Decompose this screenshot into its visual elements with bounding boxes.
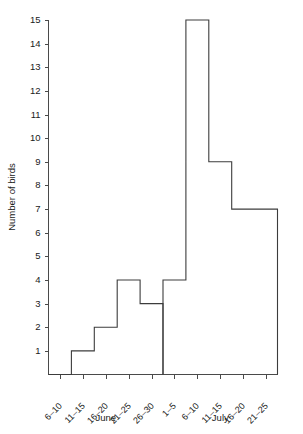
x-tick-label: 21–25 bbox=[245, 401, 270, 426]
histogram-outline-july bbox=[163, 20, 278, 375]
x-tick-marks bbox=[61, 375, 267, 379]
x-axis-group: 6–1011–1516–2021–2526–301–56–1011–1516–2… bbox=[43, 375, 278, 426]
y-tick-label: 15 bbox=[30, 14, 41, 25]
group-label-july: July bbox=[212, 412, 229, 423]
chart-canvas: 123456789101112131415 6–1011–1516–2021–2… bbox=[0, 0, 303, 434]
y-tick-label: 13 bbox=[30, 61, 41, 72]
y-tick-label: 12 bbox=[30, 85, 41, 96]
y-tick-label: 1 bbox=[35, 345, 40, 356]
y-axis-title: Number of birds bbox=[6, 163, 17, 231]
histogram-outline-june bbox=[49, 280, 164, 375]
x-tick-label: 26–30 bbox=[131, 401, 156, 426]
y-tick-marks bbox=[45, 21, 49, 352]
y-tick-label: 7 bbox=[35, 203, 40, 214]
y-tick-label: 5 bbox=[35, 250, 40, 261]
y-tick-label: 11 bbox=[31, 109, 41, 120]
y-axis-group: 123456789101112131415 bbox=[30, 14, 49, 374]
y-tick-label: 3 bbox=[35, 298, 40, 309]
y-tick-label: 14 bbox=[30, 38, 41, 49]
y-tick-labels: 123456789101112131415 bbox=[30, 14, 41, 356]
y-tick-label: 9 bbox=[35, 156, 40, 167]
bird-count-histogram: 123456789101112131415 6–1011–1516–2021–2… bbox=[0, 0, 303, 434]
x-tick-labels: 6–1011–1516–2021–2526–301–56–1011–1516–2… bbox=[43, 401, 270, 426]
y-tick-label: 8 bbox=[35, 179, 40, 190]
group-label-june: June bbox=[95, 412, 116, 423]
x-tick-label: 11–15 bbox=[63, 401, 87, 425]
x-tick-label: 1–5 bbox=[160, 401, 178, 419]
y-tick-label: 6 bbox=[35, 227, 40, 238]
y-tick-label: 4 bbox=[35, 274, 40, 285]
y-tick-label: 10 bbox=[30, 132, 41, 143]
histogram-series bbox=[49, 20, 278, 375]
x-tick-label: 6–10 bbox=[43, 401, 64, 422]
y-tick-label: 2 bbox=[35, 321, 40, 332]
x-tick-label: 6–10 bbox=[180, 401, 201, 422]
